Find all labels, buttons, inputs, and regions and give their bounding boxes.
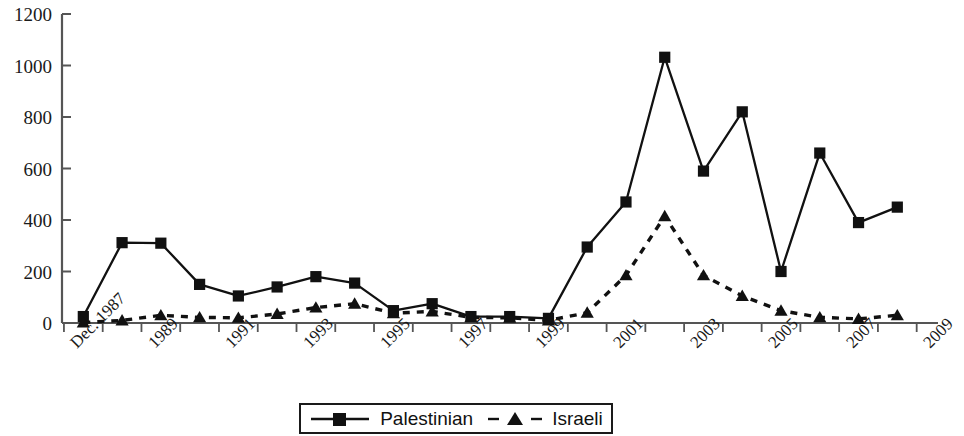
y-axis-tick-label: 200 [0, 263, 52, 282]
data-point-marker-palestinian [620, 196, 631, 207]
data-point-marker-palestinian [349, 277, 360, 288]
legend-label-palestinian: Palestinian [380, 409, 473, 428]
data-point-marker-palestinian [737, 106, 748, 117]
legend-label-israeli: Israeli [552, 409, 603, 428]
data-point-marker-palestinian [698, 165, 709, 176]
data-point-marker-palestinian [853, 217, 864, 228]
line-chart: 120010008006004002000 Dec. 1987198919911… [0, 0, 964, 436]
data-point-marker-palestinian [233, 290, 244, 301]
data-point-marker-palestinian [194, 279, 205, 290]
data-point-marker-palestinian [582, 241, 593, 252]
y-axis-tick-label: 600 [0, 160, 52, 179]
data-point-marker-palestinian [659, 52, 670, 63]
data-point-marker-israeli [581, 306, 594, 317]
data-point-marker-palestinian [775, 266, 786, 277]
series-line-palestinian [83, 57, 897, 318]
data-point-marker-israeli [774, 304, 787, 315]
data-point-marker-israeli [697, 269, 710, 280]
y-axis-tick-label: 0 [0, 314, 52, 333]
axes [62, 14, 938, 332]
series-line-israeli [83, 216, 897, 322]
legend-entry-palestinian: Palestinian [309, 409, 473, 428]
y-axis-tick-label: 1000 [0, 57, 52, 76]
data-point-marker-palestinian [272, 281, 283, 292]
israeli-legend-swatch [487, 410, 543, 428]
legend-entry-israeli: Israeli [487, 409, 603, 428]
y-axis-tick-label: 400 [0, 211, 52, 230]
data-point-marker-israeli [658, 210, 671, 221]
y-axis-tick-label: 800 [0, 108, 52, 127]
y-axis-tick-label: 1200 [0, 5, 52, 24]
data-point-marker-palestinian [892, 202, 903, 213]
data-series [77, 52, 904, 328]
data-point-marker-palestinian [814, 147, 825, 158]
palestinian-legend-swatch [309, 410, 371, 428]
plot-area [0, 0, 964, 436]
data-point-marker-palestinian [310, 271, 321, 282]
data-point-marker-israeli [619, 269, 632, 280]
data-point-marker-palestinian [116, 237, 127, 248]
legend: Palestinian Israeli [299, 403, 613, 434]
data-point-marker-palestinian [155, 238, 166, 249]
